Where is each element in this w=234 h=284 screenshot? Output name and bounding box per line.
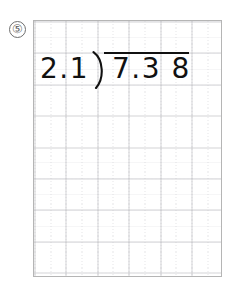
worksheet-page: ⑤ 2.1 7.3 8	[0, 0, 234, 284]
divisor-value: 2.1	[40, 52, 89, 85]
problem-number-badge: ⑤	[9, 21, 26, 38]
dividend-value: 7.3 8	[112, 52, 191, 85]
division-bracket-icon	[90, 51, 112, 89]
answer-grid-paper[interactable]: 2.1 7.3 8	[33, 20, 222, 277]
long-division-expression: 2.1 7.3 8	[34, 21, 221, 276]
